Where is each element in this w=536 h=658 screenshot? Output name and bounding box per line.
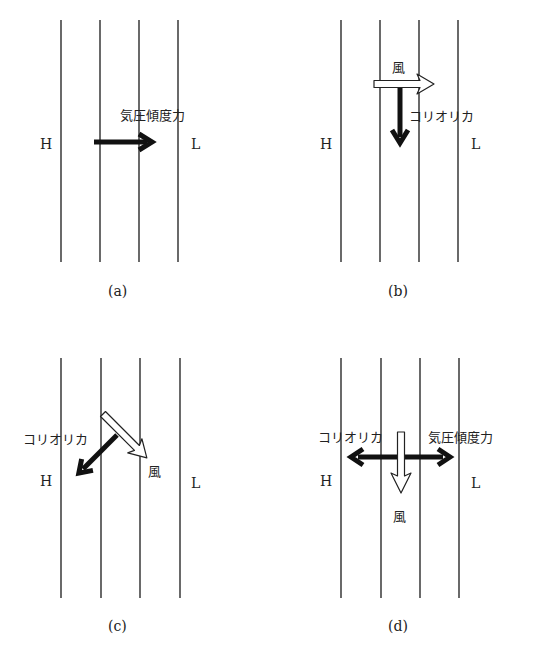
coriolis-label: コリオリカ — [23, 432, 88, 447]
panel-b: H L 風 コリオリカ (b) — [320, 20, 480, 299]
wind-label: 風 — [148, 464, 161, 479]
pressure-gradient-arrow-icon — [400, 449, 450, 465]
panel-caption: (d) — [388, 618, 408, 634]
pressure-gradient-arrow-icon — [94, 134, 152, 150]
coriolis-label: コリオリカ — [409, 109, 474, 124]
high-pressure-label: H — [40, 136, 52, 152]
panel-a: H L 気圧傾度力 (a) — [40, 20, 200, 299]
pressure-gradient-label: 気圧傾度力 — [120, 108, 185, 123]
pressure-gradient-label: 気圧傾度力 — [428, 430, 493, 445]
low-pressure-label: L — [471, 136, 480, 152]
coriolis-label: コリオリカ — [318, 430, 383, 445]
low-pressure-label: L — [471, 475, 480, 491]
panel-caption: (b) — [388, 283, 408, 299]
high-pressure-label: H — [40, 473, 52, 489]
wind-label: 風 — [392, 60, 405, 75]
isobars — [61, 358, 180, 598]
panel-caption: (a) — [108, 283, 127, 299]
wind-arrow-icon — [96, 407, 154, 465]
low-pressure-label: L — [191, 136, 200, 152]
high-pressure-label: H — [320, 473, 332, 489]
panel-c: H L コリオリカ 風 (c) — [23, 358, 200, 634]
coriolis-arrow-icon — [351, 449, 400, 465]
wind-arrow-icon — [374, 74, 434, 94]
panel-d: H L コリオリカ 気圧傾度力 風 (d) — [318, 358, 493, 634]
high-pressure-label: H — [320, 136, 332, 152]
coriolis-arrow-icon — [392, 88, 408, 143]
wind-label: 風 — [393, 509, 406, 524]
wind-arrow-icon — [391, 432, 411, 493]
geostrophic-wind-diagram: H L 気圧傾度力 (a) H L 風 コリオリカ (b) — [0, 0, 536, 658]
panel-caption: (c) — [108, 618, 127, 634]
low-pressure-label: L — [191, 475, 200, 491]
